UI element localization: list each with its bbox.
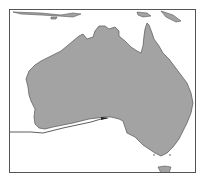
bass-strait-island bbox=[169, 154, 171, 156]
australia-map bbox=[10, 10, 196, 173]
map-frame[interactable]: Australia bbox=[9, 9, 196, 173]
island-new-guinea-east bbox=[161, 11, 181, 22]
australia-mainland bbox=[26, 23, 193, 156]
route-arrow-icon bbox=[101, 117, 109, 120]
bass-strait-island bbox=[153, 154, 155, 156]
tasmania bbox=[158, 166, 171, 173]
island-timor bbox=[13, 12, 81, 17]
island-small bbox=[51, 17, 57, 19]
island-new-guinea-south bbox=[137, 12, 151, 17]
